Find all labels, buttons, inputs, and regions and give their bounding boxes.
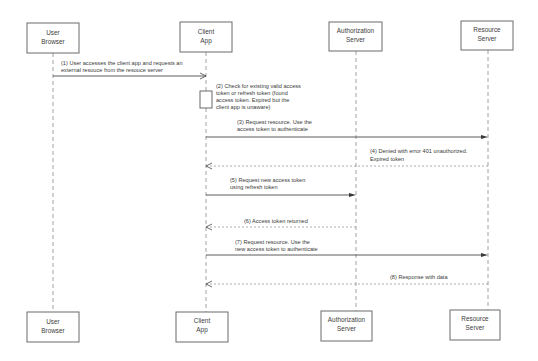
message-3-label-line1: (3) Request resource. Use the (237, 119, 312, 125)
message-8: (8) Response with data (206, 274, 488, 287)
message-2-label-line2: token or refresh token (found (216, 90, 288, 96)
actor-bottom-client-app: Client App (176, 312, 228, 342)
message-1: (1) User accesses the client app and req… (53, 60, 206, 79)
actor-label-line1: User (46, 318, 60, 325)
actor-label-line1: Resource (461, 315, 489, 322)
activation-box (200, 91, 212, 108)
actor-label-line2: Server (346, 36, 366, 43)
actor-label-line1: Client (194, 317, 211, 324)
message-5: (5) Request new access token using refre… (206, 177, 356, 197)
filled-arrowhead-icon (481, 135, 488, 139)
actor-label-line2: Browser (41, 38, 65, 45)
message-1-label-line2: external resouce from the resouce server (61, 67, 163, 73)
actor-label-line1: Resource (473, 26, 501, 33)
message-7: (7) Request resource. Use the new access… (206, 239, 488, 257)
actor-bottom-user-browser: User Browser (27, 312, 79, 342)
actor-label-line2: App (200, 37, 212, 45)
actor-label-line2: Browser (41, 327, 65, 334)
message-2-label-line3: access token. Expired but the (216, 97, 289, 103)
message-8-label-line1: (8) Response with data (390, 274, 448, 280)
filled-arrowhead-icon (349, 193, 356, 197)
message-1-label-line1: (1) User accesses the client app and req… (61, 60, 183, 66)
actor-label-line2: App (196, 326, 208, 334)
message-7-label-line2: new access token to authenticate (235, 246, 318, 252)
message-5-label-line1: (5) Request new access token (230, 177, 305, 183)
actor-bottom-resource-server: Resource Server (450, 310, 500, 340)
actor-top-user-browser: User Browser (27, 23, 79, 53)
actor-label-line2: Server (337, 325, 357, 332)
actor-label-line1: Authorization (337, 27, 375, 34)
actor-top-client-app: Client App (180, 22, 232, 52)
message-4-label-line2: Expired token (370, 156, 404, 162)
actor-label-line1: Authorization (328, 316, 366, 323)
actor-label-line2: Server (478, 35, 498, 42)
message-6: (6) Access token returned (206, 218, 356, 230)
message-2-label-line1: (2) Check for existing valid access (216, 83, 301, 89)
actor-label-line2: Server (466, 324, 486, 331)
message-5-label-line2: using refresh token (230, 184, 278, 190)
message-2: (2) Check for existing valid access toke… (200, 83, 301, 110)
filled-arrowhead-icon (481, 253, 488, 257)
message-4: (4) Denied with error 401 unauthorized. … (206, 148, 488, 169)
message-4-label-line1: (4) Denied with error 401 unauthorized. (370, 148, 468, 154)
message-7-label-line1: (7) Request resource. Use the (235, 239, 310, 245)
message-3: (3) Request resource. Use the access tok… (206, 119, 488, 139)
sequence-diagram: User Browser Client App Authorization Se… (0, 0, 538, 361)
message-3-label-line2: access token to authenticate (237, 126, 308, 132)
actor-label-line1: User (46, 29, 60, 36)
message-6-label-line1: (6) Access token returned (244, 218, 308, 224)
message-2-label-line4: client app is unaware) (216, 104, 271, 110)
actor-label-line1: Client (198, 28, 215, 35)
actor-bottom-authorization-server: Authorization Server (321, 311, 372, 341)
actor-top-resource-server: Resource Server (461, 21, 513, 50)
actor-top-authorization-server: Authorization Server (329, 22, 382, 51)
